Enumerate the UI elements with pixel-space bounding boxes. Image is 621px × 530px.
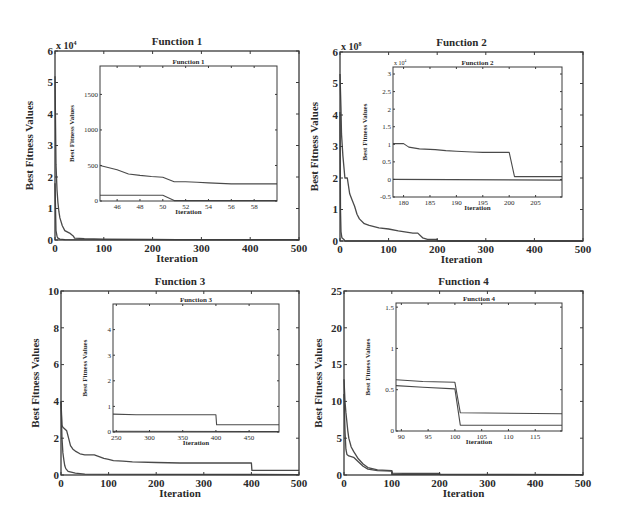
inset-plot-area: [393, 67, 562, 197]
y-tick-label: 10: [48, 285, 60, 297]
inset-title: Function 2: [461, 59, 494, 67]
inset-y-tick-label: 1: [108, 403, 112, 411]
x-axis-label: Iteration: [156, 252, 198, 264]
y-tick-label: 4: [333, 109, 339, 121]
inset-x-tick-label: 185: [425, 199, 436, 207]
inset-x-tick-label: 250: [111, 434, 122, 442]
chart-function-1: 01002003004005000123456Function 1Iterati…: [23, 35, 308, 264]
inset-title: Function 1: [172, 58, 205, 66]
inset-y-tick-label: 500: [88, 162, 99, 170]
inset-x-tick-label: 115: [530, 433, 541, 441]
y-tick-label: 5: [337, 432, 343, 444]
inset-title: Function 4: [463, 295, 496, 303]
inset-x-axis-label: Iteration: [183, 439, 210, 447]
x-tick-label: 100: [384, 477, 401, 489]
x-tick-label: 400: [527, 477, 544, 489]
x-tick-label: 400: [242, 242, 259, 254]
y-tick-label: 1: [333, 203, 339, 215]
y-tick-label: 0: [54, 469, 60, 481]
inset-y-axis-label: Best Fitness Values: [81, 339, 89, 396]
inset-y-tick-label: 1.5: [382, 123, 391, 131]
y-tick-label: 2: [48, 171, 54, 183]
inset-y-tick-label: 1: [391, 345, 395, 353]
x-tick-label: 500: [575, 243, 592, 255]
x-tick-label: 100: [380, 243, 397, 255]
title: Function 1: [152, 35, 202, 47]
inset-x-tick-label: 58: [251, 203, 259, 211]
y-axis-label: Best Fitness Values: [312, 338, 324, 428]
inset-y-tick-label: 2: [388, 106, 392, 114]
y-tick-label: 20: [331, 322, 343, 334]
y-axis-label: Best Fitness Values: [29, 338, 41, 428]
x-tick-label: 100: [96, 242, 113, 254]
inset-x-axis-label: Iteration: [464, 204, 491, 212]
inset-x-tick-label: 100: [450, 433, 461, 441]
inset-y-tick-label: 1.5: [385, 304, 394, 312]
inset-plot-area: [396, 303, 562, 431]
inset-x-tick-label: 450: [244, 434, 255, 442]
y-tick-label: 15: [331, 358, 343, 370]
x-tick-label: 500: [291, 477, 308, 489]
inset-title: Function 3: [180, 296, 213, 304]
inset-y-tick-label: 0: [108, 428, 112, 436]
y-tick-label: 6: [333, 46, 339, 58]
inset-x-tick-label: 46: [114, 203, 122, 211]
inset-y-axis-label: Best Fitness Values: [361, 103, 369, 160]
y-tick-label: 0: [48, 234, 54, 246]
title: Function 3: [155, 275, 206, 287]
inset-x-tick-label: 95: [425, 433, 433, 441]
x-tick-label: 500: [575, 477, 592, 489]
inset-plot-area: [113, 304, 279, 432]
chart-function-2: 01002003004005000123456Function 2Iterati…: [308, 36, 592, 265]
y-tick-label: 1: [48, 202, 54, 214]
inset-x-axis-label: Iteration: [175, 208, 202, 216]
x-tick-label: 400: [526, 243, 543, 255]
y-tick-label: 3: [333, 140, 339, 152]
inset-y-tick-label: 0: [95, 197, 99, 205]
inset-y-tick-label: 1500: [84, 91, 99, 99]
inset-x-tick-label: 54: [205, 203, 213, 211]
x-tick-label: 0: [341, 477, 347, 489]
x-tick-label: 0: [52, 242, 58, 254]
title: Function 4: [438, 275, 489, 287]
y-tick-label: 10: [331, 395, 343, 407]
y-tick-label: 3: [48, 139, 54, 151]
inset-x-tick-label: 90: [398, 433, 406, 441]
inset-series-line: [393, 179, 562, 180]
inset-y-tick-label: 0.5: [385, 386, 394, 394]
inset-y-axis-label: Best Fitness Values: [364, 338, 372, 395]
y-tick-label: 8: [54, 322, 60, 334]
title: Function 2: [436, 36, 487, 48]
exponent-label: x 104: [56, 40, 77, 52]
y-tick-label: 2: [54, 432, 60, 444]
chart-function-4: 01002003004005000510152025Function 4Iter…: [312, 275, 592, 499]
inset-y-tick-label: 2: [108, 377, 112, 385]
inset-x-tick-label: 56: [228, 203, 236, 211]
y-tick-label: 5: [48, 76, 54, 88]
inset-y-tick-label: 0: [391, 427, 395, 435]
x-tick-label: 0: [58, 477, 64, 489]
y-tick-label: 4: [48, 108, 54, 120]
inset-y-tick-label: 2.5: [382, 88, 391, 96]
y-tick-label: 6: [48, 45, 54, 57]
y-tick-label: 4: [54, 395, 60, 407]
inset-y-tick-label: 3: [108, 352, 112, 360]
exponent-label: x 108: [341, 41, 362, 53]
inset-y-tick-label: 3: [388, 70, 392, 78]
y-tick-label: 0: [337, 469, 343, 481]
x-tick-label: 400: [243, 477, 260, 489]
inset-plot-area: [100, 66, 277, 201]
y-tick-label: 0: [333, 235, 339, 247]
x-axis-label: Iteration: [159, 487, 201, 499]
y-tick-label: 5: [333, 77, 339, 89]
inset-x-tick-label: 400: [211, 434, 222, 442]
inset-x-tick-label: 190: [451, 199, 462, 207]
y-axis-label: Best Fitness Values: [308, 101, 320, 191]
y-axis-label: Best Fitness Values: [23, 100, 35, 190]
inset-y-tick-label: -0.5: [380, 193, 392, 201]
chart-function-3: 01002003004005000246810Function 3Iterati…: [29, 275, 308, 499]
inset-x-tick-label: 180: [398, 199, 409, 207]
inset-x-axis-label: Iteration: [466, 438, 493, 446]
inset-x-tick-label: 200: [504, 199, 515, 207]
inset-x-tick-label: 205: [530, 199, 541, 207]
